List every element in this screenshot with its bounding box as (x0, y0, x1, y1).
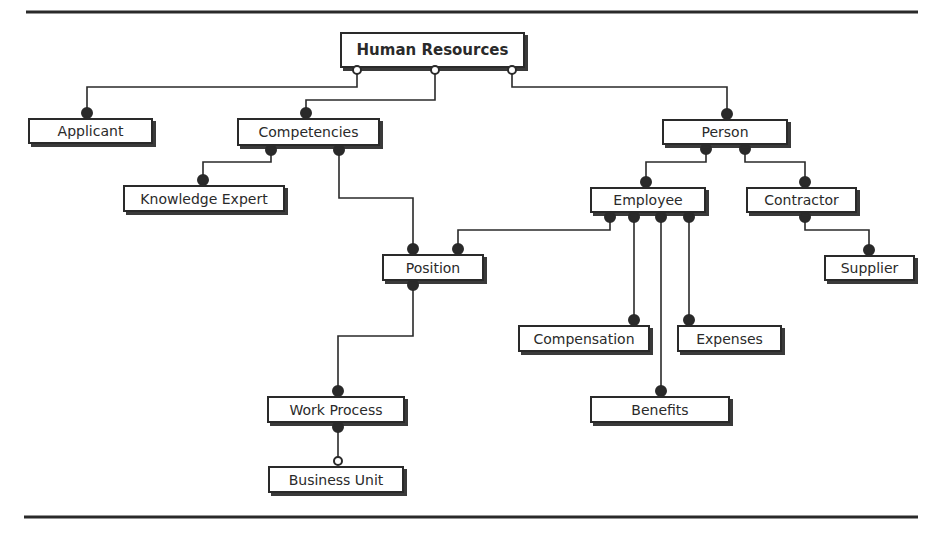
filled-dot-icon (408, 244, 418, 254)
filled-dot-icon (408, 280, 418, 290)
open-circle-icon (353, 66, 361, 74)
filled-dot-icon (740, 144, 750, 154)
filled-dot-icon (629, 212, 639, 222)
filled-dot-icon (684, 212, 694, 222)
filled-dot-icon (641, 177, 651, 187)
filled-dot-icon (82, 108, 92, 118)
filled-dot-icon (605, 212, 615, 222)
filled-dot-icon (864, 245, 874, 255)
open-circle-icon (431, 66, 439, 74)
filled-dot-icon (453, 244, 463, 254)
filled-dot-icon (334, 145, 344, 155)
filled-dot-icon (701, 144, 711, 154)
filled-dot-icon (656, 386, 666, 396)
open-circle-icon (508, 66, 516, 74)
endpoint-layer (0, 0, 947, 535)
filled-dot-icon (301, 108, 311, 118)
filled-dot-icon (684, 315, 694, 325)
filled-dot-icon (629, 315, 639, 325)
filled-dot-icon (333, 422, 343, 432)
filled-dot-icon (198, 175, 208, 185)
filled-dot-icon (722, 109, 732, 119)
open-circle-icon (334, 457, 342, 465)
filled-dot-icon (266, 145, 276, 155)
filled-dot-icon (656, 212, 666, 222)
filled-dot-icon (800, 177, 810, 187)
filled-dot-icon (333, 386, 343, 396)
filled-dot-icon (800, 212, 810, 222)
